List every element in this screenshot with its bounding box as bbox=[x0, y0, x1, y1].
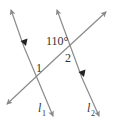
l2-label-sub: 2 bbox=[91, 109, 95, 118]
diagram-canvas: 110° 2 1 l 1 l 2 bbox=[0, 0, 113, 122]
l1-label-sub: 1 bbox=[42, 109, 46, 118]
transversal-line bbox=[7, 12, 106, 104]
angle-110-label: 110° bbox=[46, 34, 69, 48]
line-l1 bbox=[11, 10, 53, 116]
angle-1-label: 1 bbox=[36, 61, 42, 75]
line-l2 bbox=[57, 10, 99, 116]
line-l1-label: l 1 bbox=[38, 101, 46, 118]
angle-2-label: 2 bbox=[65, 51, 71, 65]
